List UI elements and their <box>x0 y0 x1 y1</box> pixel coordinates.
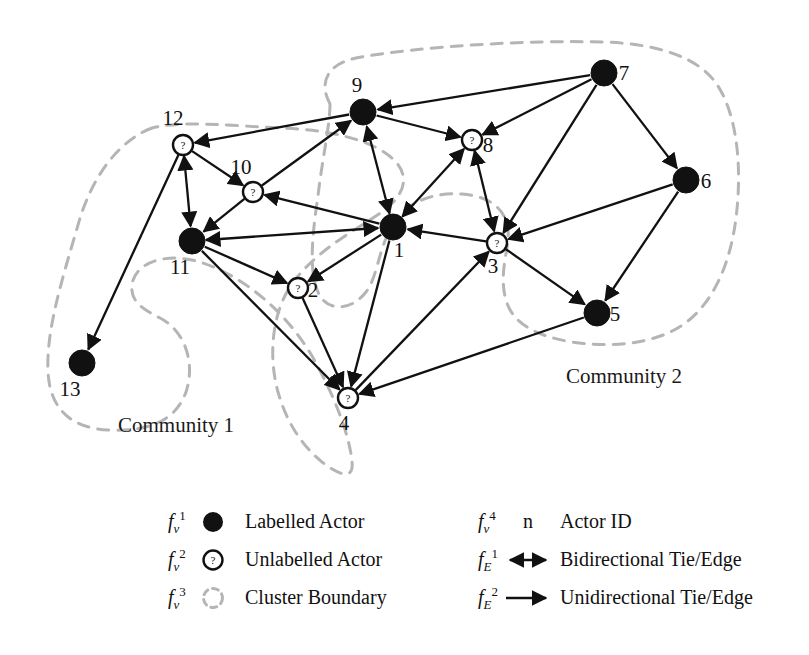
network-edge <box>503 85 596 233</box>
actor-id-label-10: 10 <box>231 155 252 179</box>
network-edge <box>506 249 585 304</box>
actor-id-label-3: 3 <box>488 254 499 278</box>
actor-id-label-2: 2 <box>308 278 319 302</box>
actor-id-label-1: 1 <box>394 238 405 262</box>
actor-node-11[interactable] <box>179 228 205 254</box>
legend-label-cluster-boundary: Cluster Boundary <box>245 586 387 609</box>
network-edge <box>367 127 390 214</box>
network-canvas: ?????? 12345678910111213 Community 1Comm… <box>0 0 809 655</box>
actor-node-6[interactable] <box>673 167 699 193</box>
actor-id-label-6: 6 <box>701 169 712 193</box>
cluster-boundary-community-2 <box>312 42 738 345</box>
network-edge <box>613 84 677 168</box>
legend-actor-id-glyph: n <box>523 510 533 532</box>
unlabelled-actor-question-icon: ? <box>181 139 186 151</box>
network-edge <box>308 235 381 282</box>
legend-symbol-actor-id: fv4 <box>478 508 496 536</box>
legend-symbol-labelled-actor: fv1 <box>168 508 186 536</box>
network-edge <box>359 318 583 395</box>
network-edge <box>184 156 191 226</box>
actor-id-label-12: 12 <box>163 106 184 130</box>
community-labels: Community 1Community 2 <box>118 364 682 437</box>
legend-label-labelled-actor: Labelled Actor <box>245 510 365 532</box>
legend-label-actor-id: Actor ID <box>560 510 632 532</box>
actor-id-label-8: 8 <box>483 133 494 157</box>
legend-symbol-unidirectional-edge: fE2 <box>478 584 498 612</box>
unlabelled-actor-question-icon: ? <box>346 392 351 404</box>
legend-dashed-circle-icon <box>204 589 223 608</box>
network-edge <box>408 229 486 241</box>
actor-node-13[interactable] <box>69 350 95 376</box>
network-edge <box>483 79 592 134</box>
unlabelled-actor-question-icon: ? <box>470 134 475 146</box>
actor-id-label-4: 4 <box>339 411 350 435</box>
network-edge <box>378 75 590 109</box>
unlabelled-actor-question-icon: ? <box>296 282 301 294</box>
legend-filled-circle-icon <box>203 512 223 532</box>
network-edge <box>351 241 389 387</box>
network-edge <box>475 151 495 232</box>
actor-id-label-11: 11 <box>170 255 190 279</box>
actor-node-9[interactable] <box>350 99 376 125</box>
network-edge <box>508 184 672 239</box>
network-edge <box>377 116 461 138</box>
legend-label-unidirectional-edge: Unidirectional Tie/Edge <box>560 586 753 609</box>
network-edge <box>202 251 340 390</box>
unlabelled-actor-question-icon: ? <box>495 237 500 249</box>
network-edge <box>402 149 464 217</box>
legend-label-unlabelled-actor: Unlabelled Actor <box>245 548 383 570</box>
legend-symbol-bidirectional-edge: fE1 <box>478 546 498 574</box>
network-edge <box>204 199 245 232</box>
network-edge <box>206 228 378 240</box>
actor-id-label-5: 5 <box>610 302 621 326</box>
legend-label-bidirectional-edge: Bidirectional Tie/Edge <box>560 548 742 571</box>
unlabelled-actor-question-icon: ? <box>251 186 256 198</box>
legend-question-mark-icon: ? <box>211 554 216 566</box>
actor-node-7[interactable] <box>591 60 617 86</box>
actor-id-label-9: 9 <box>352 73 363 97</box>
community-label-community-2: Community 2 <box>566 364 682 388</box>
actor-node-1[interactable] <box>380 214 406 240</box>
community-label-community-1: Community 1 <box>118 413 234 437</box>
legend-symbol-cluster-boundary: fv3 <box>168 584 186 612</box>
actor-id-label-7: 7 <box>619 61 630 85</box>
network-edge <box>265 195 380 224</box>
legend-symbol-unlabelled-actor: fv2 <box>168 546 186 574</box>
network-edge <box>605 192 678 301</box>
legend: fv1Labelled Actorfv2?Unlabelled Actorfv3… <box>168 508 753 612</box>
actor-id-label-13: 13 <box>60 377 81 401</box>
network-figure: ?????? 12345678910111213 Community 1Comm… <box>0 0 809 655</box>
actor-node-5[interactable] <box>584 300 610 326</box>
